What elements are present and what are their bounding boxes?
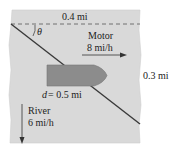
river-title-label: River xyxy=(28,105,51,116)
river-diagram: 0.4 mi θ Motor 8 mi/h d = 0.5 mi River 6… xyxy=(0,0,173,155)
motor-speed-label: 8 mi/h xyxy=(87,42,113,53)
river-speed-label: 6 mi/h xyxy=(28,117,54,128)
motor-title-label: Motor xyxy=(88,30,114,41)
distance-value-label: = 0.5 mi xyxy=(48,89,82,100)
width-label: 0.4 mi xyxy=(62,11,88,22)
boat-shape xyxy=(47,65,107,86)
angle-label: θ xyxy=(37,26,42,37)
downstream-label: 0.3 mi xyxy=(143,70,169,81)
